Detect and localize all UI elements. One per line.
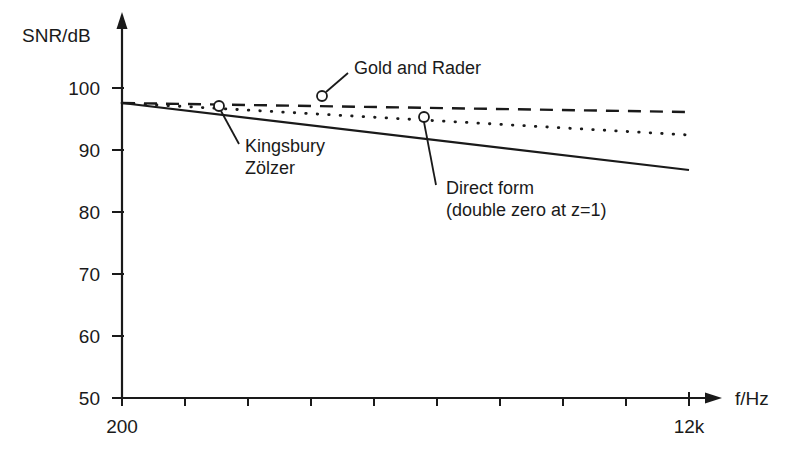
y-tick-label-100: 100	[68, 78, 100, 99]
x-axis-arrow-icon	[705, 393, 722, 404]
x-axis-tick-labels: 200 12k	[106, 416, 705, 437]
y-tick-label-60: 60	[79, 326, 100, 347]
y-axis-arrow-icon	[117, 12, 128, 29]
chart-page: 100 90 80 70 60 50 200 12k SNR/dB f/H	[0, 0, 792, 464]
series-line-gold-and-rader	[122, 103, 689, 112]
annotation-label-gold-and-rader: Gold and Rader	[354, 58, 481, 78]
annotation-label-direct-form-line1: Direct form	[446, 178, 534, 198]
y-tick-label-50: 50	[79, 388, 100, 409]
data-point-marker-direct-form	[419, 112, 429, 122]
annotation-label-direct-form-line2: (double zero at z=1)	[446, 200, 607, 220]
leader-line-direct-form	[424, 122, 436, 185]
y-tick-label-80: 80	[79, 202, 100, 223]
annotation-direct-form: Direct form (double zero at z=1)	[419, 112, 607, 220]
leader-line-gold-and-rader	[326, 73, 348, 92]
y-tick-label-70: 70	[79, 264, 100, 285]
x-tick-label-start: 200	[106, 416, 138, 437]
x-axis-title: f/Hz	[735, 388, 769, 409]
y-axis-title: SNR/dB	[22, 25, 91, 46]
series-line-direct-form	[122, 103, 689, 135]
annotation-label-kingsbury-line2: Zölzer	[245, 158, 295, 178]
x-tick-label-end: 12k	[674, 416, 705, 437]
snr-vs-frequency-chart: 100 90 80 70 60 50 200 12k SNR/dB f/H	[0, 0, 792, 464]
y-axis-tick-labels: 100 90 80 70 60 50	[68, 78, 100, 409]
y-axis	[117, 12, 128, 398]
series-line-kingsbury-zolzer	[122, 103, 689, 170]
x-axis	[122, 393, 722, 404]
annotation-gold-and-rader: Gold and Rader	[317, 58, 481, 101]
annotation-kingsbury-zolzer: Kingsbury Zölzer	[214, 101, 325, 178]
data-point-marker-gold-and-rader	[317, 91, 327, 101]
annotation-label-kingsbury-line1: Kingsbury	[245, 136, 325, 156]
y-tick-label-90: 90	[79, 140, 100, 161]
data-point-marker-kingsbury-zolzer	[214, 101, 224, 111]
